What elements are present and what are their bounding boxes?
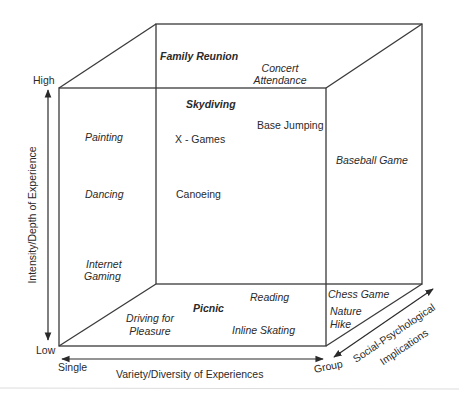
activity-nature-hike-line1: Nature (330, 305, 362, 317)
activity-internet-gaming-line1: Internet (86, 258, 123, 270)
activity-driving-line1: Driving for (126, 312, 174, 324)
activity-painting: Painting (85, 131, 123, 143)
vertical-axis: High Low Intensity/Depth of Experience (26, 74, 56, 356)
activity-canoeing: Canoeing (176, 188, 221, 200)
vertical-axis-title: Intensity/Depth of Experience (26, 146, 38, 283)
activity-internet-gaming-line2: Gaming (84, 270, 121, 282)
page-divider (0, 388, 459, 389)
activity-base-jumping: Base Jumping (257, 119, 324, 131)
horizontal-axis-single-label: Single (58, 361, 87, 373)
activity-labels: Family Reunion Concert Attendance Skydiv… (84, 50, 408, 337)
horizontal-axis-title: Variety/Diversity of Experiences (116, 368, 263, 380)
activity-inline-skating: Inline Skating (232, 324, 295, 336)
activity-concert-line1: Concert (262, 62, 300, 74)
activity-skydiving: Skydiving (186, 98, 236, 110)
activity-concert-line2: Attendance (252, 74, 306, 86)
activity-reading: Reading (250, 291, 289, 303)
activity-nature-hike-line2: Hike (330, 318, 351, 330)
activity-baseball-game: Baseball Game (336, 154, 408, 166)
activity-chess-game: Chess Game (328, 288, 389, 300)
cube-edge-top-left (59, 24, 156, 88)
experience-cube-diagram: High Low Intensity/Depth of Experience S… (0, 0, 459, 399)
activity-x-games: X - Games (175, 133, 225, 145)
horizontal-axis-group-label: Group (313, 357, 344, 375)
horizontal-axis: Single Variety/Diversity of Experiences … (58, 357, 344, 380)
cube-edge-top-right (326, 24, 422, 88)
vertical-axis-low-label: Low (36, 344, 56, 356)
activity-driving-line2: Pleasure (129, 325, 171, 337)
activity-family-reunion: Family Reunion (160, 50, 238, 62)
activity-picnic: Picnic (193, 302, 224, 314)
vertical-axis-high-label: High (33, 74, 55, 86)
activity-dancing: Dancing (85, 188, 124, 200)
